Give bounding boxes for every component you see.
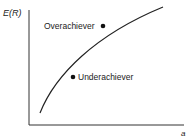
overachiever-point [101,24,106,29]
diagram-canvas: E(R) a Overachiever Underachiever [0,0,189,139]
underachiever-point [71,75,76,80]
underachiever-label: Underachiever [78,72,133,82]
overachiever-label: Overachiever [44,21,95,31]
x-axis-label: a [181,129,186,138]
y-axis-label: E(R) [3,8,22,18]
